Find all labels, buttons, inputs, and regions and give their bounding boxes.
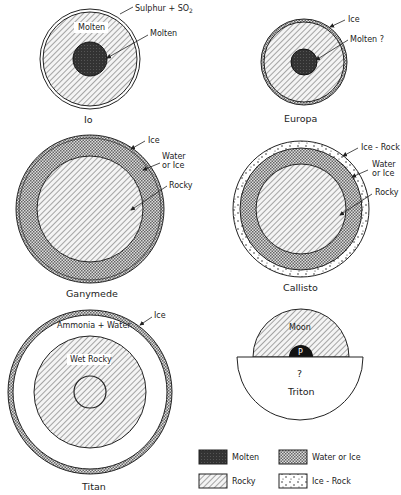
io-core-label: Molten: [150, 29, 177, 38]
titan-name: Titan: [81, 481, 106, 492]
ganymede-core-label: Rocky: [169, 181, 193, 190]
ganymede-name: Ganymede: [66, 288, 118, 299]
callisto-mantle-label-2: or Ice: [372, 169, 394, 178]
legend-label-molten: Molten: [232, 453, 259, 462]
callisto-name: Callisto: [283, 282, 318, 293]
ganymede-diagram: Ice Water or Ice Rocky Ganymede: [16, 135, 193, 299]
io-crust-label: Sulphur + SO2: [135, 4, 193, 14]
callisto-diagram: Ice - Rock Water or Ice Rocky Callisto: [233, 141, 400, 293]
triton-lower-label: ?: [297, 368, 302, 379]
triton-core-label: P: [298, 348, 303, 357]
callisto-mantle-label: Water: [372, 160, 396, 169]
moon-interiors-diagram: Molten Sulphur + SO2 Molten Io Ice Molte…: [0, 0, 401, 495]
titan-diagram: Ammonia + Water Wet Rocky Ice Titan: [8, 310, 172, 492]
triton-upper-label: Moon: [289, 323, 311, 332]
legend: Molten Water or Ice Rocky Ice - Rock: [199, 450, 361, 488]
legend-label-water-or-ice: Water or Ice: [312, 453, 361, 462]
europa-core-label: Molten ?: [350, 35, 384, 44]
titan-core-label: Wet Rocky: [70, 355, 112, 364]
europa-name: Europa: [284, 113, 317, 124]
europa-diagram: Ice Molten ? Europa: [261, 15, 384, 124]
europa-crust-label: Ice: [348, 15, 360, 24]
callisto-core-label: Rocky: [375, 188, 399, 197]
io-diagram: Molten Sulphur + SO2 Molten Io: [40, 4, 193, 125]
legend-label-rocky: Rocky: [232, 477, 256, 486]
titan-crust-label: Ice: [154, 311, 166, 320]
ganymede-mantle-label: Water: [162, 152, 186, 161]
legend-label-ice-rock: Ice - Rock: [312, 477, 351, 486]
io-name: Io: [84, 114, 93, 125]
callisto-crust-label: Ice - Rock: [361, 143, 400, 152]
io-mantle-label: Molten: [78, 23, 105, 32]
ganymede-mantle-label-2: or Ice: [162, 161, 184, 170]
ganymede-crust-label: Ice: [148, 136, 160, 145]
triton-diagram: P Moon ? Triton: [237, 309, 363, 420]
triton-name: Triton: [287, 386, 315, 397]
titan-mantle-label: Ammonia + Water: [57, 321, 131, 330]
